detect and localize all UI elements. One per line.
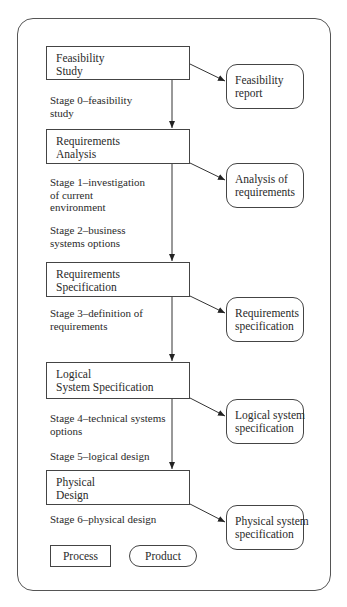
product-label-line: specification — [235, 528, 303, 541]
process-logical-system-specification: Logical System Specification — [46, 362, 190, 399]
process-label-line: Feasibility — [56, 52, 189, 65]
stage-4-label: Stage 4–technical systems options — [50, 412, 165, 437]
product-label-line: report — [235, 87, 303, 100]
process-label-line: Requirements — [56, 135, 189, 148]
stage-line: Stage 0–feasibility — [50, 94, 132, 107]
stage-line: Stage 6–physical design — [50, 513, 156, 526]
stage-line: Stage 5–logical design — [50, 450, 150, 463]
product-label-line: Feasibility — [235, 74, 303, 87]
process-label-line: Specification — [56, 281, 189, 294]
stage-1-label: Stage 1–investigation of current environ… — [50, 176, 145, 214]
stage-line: Stage 2–business — [50, 224, 125, 237]
stage-line: options — [50, 425, 165, 438]
stage-line: Stage 3–definition of — [50, 307, 143, 320]
product-label-line: Logical system — [235, 409, 303, 422]
stage-line: Stage 4–technical systems — [50, 412, 165, 425]
product-feasibility-report: Feasibility report — [226, 64, 304, 109]
stage-line: study — [50, 107, 132, 120]
legend-process: Process — [50, 545, 111, 567]
stage-line: environment — [50, 201, 145, 214]
stage-line: Stage 1–investigation — [50, 176, 145, 189]
legend-product: Product — [129, 545, 197, 567]
process-physical-design: Physical Design — [46, 470, 190, 505]
product-label-line: Physical system — [235, 515, 303, 528]
product-label-line: Analysis of — [235, 173, 303, 186]
stage-line: systems options — [50, 237, 125, 250]
process-requirements-specification: Requirements Specification — [46, 262, 190, 297]
process-label-line: System Specification — [56, 381, 189, 394]
process-label-line: Design — [56, 489, 189, 502]
product-label-line: specification — [235, 320, 303, 333]
process-label-line: Requirements — [56, 268, 189, 281]
product-logical-system-specification: Logical system specification — [226, 399, 304, 444]
process-label-line: Study — [56, 65, 189, 78]
product-label-line: requirements — [235, 186, 303, 199]
stage-5-label: Stage 5–logical design — [50, 450, 150, 463]
process-label-line: Logical — [56, 368, 189, 381]
product-requirements-specification: Requirements specification — [226, 297, 304, 342]
stage-2-label: Stage 2–business systems options — [50, 224, 125, 249]
product-label-line: specification — [235, 422, 303, 435]
process-label-line: Analysis — [56, 148, 189, 161]
product-analysis-of-requirements: Analysis of requirements — [226, 163, 304, 208]
product-physical-system-specification: Physical system specification — [226, 505, 304, 550]
stage-3-label: Stage 3–definition of requirements — [50, 307, 143, 332]
stage-0-label: Stage 0–feasibility study — [50, 94, 132, 119]
stage-6-label: Stage 6–physical design — [50, 513, 156, 526]
stage-line: of current — [50, 189, 145, 202]
stage-line: requirements — [50, 320, 143, 333]
process-feasibility-study: Feasibility Study — [46, 46, 190, 80]
process-requirements-analysis: Requirements Analysis — [46, 129, 190, 164]
product-label-line: Requirements — [235, 307, 303, 320]
process-label-line: Physical — [56, 476, 189, 489]
